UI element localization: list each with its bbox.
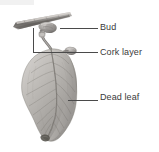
label-cork-layer: Cork layer [100,47,142,57]
botanical-diagram-figure: Bud Cork layer Dead leaf [0,0,159,152]
leaf-illustration [0,0,159,152]
leaf-petiole [39,31,52,49]
leader-line-bud [60,28,98,29]
label-bud: Bud [100,22,116,32]
leader-line-dead-leaf [68,100,98,101]
label-dead-leaf: Dead leaf [100,92,139,102]
leader-line-cork-vertical [33,28,34,53]
leader-line-cork [33,52,98,53]
